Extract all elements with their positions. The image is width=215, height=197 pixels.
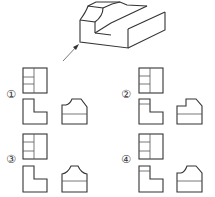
option-3-front-view <box>23 166 47 192</box>
option-2-front-view <box>139 99 163 124</box>
option-4-front-view <box>139 166 163 192</box>
option-1-side-view <box>62 99 87 124</box>
option-4[interactable]: ④ <box>121 134 202 192</box>
option-2-label: ② <box>121 88 131 101</box>
option-2[interactable]: ② <box>121 68 202 124</box>
view-direction-arrow <box>63 44 79 61</box>
option-3-top-view <box>23 134 47 159</box>
option-4-side-view <box>177 166 202 192</box>
option-1-front-view <box>23 99 47 124</box>
projection-diagram: ① ② ③ <box>0 0 215 197</box>
option-4-top-view <box>139 134 163 159</box>
option-1-top-view <box>23 68 47 93</box>
option-3-side-view <box>62 166 87 192</box>
option-3[interactable]: ③ <box>6 134 87 192</box>
option-2-side-view <box>177 99 202 124</box>
option-1-label: ① <box>6 88 16 101</box>
option-4-label: ④ <box>121 153 131 166</box>
option-3-label: ③ <box>6 153 16 166</box>
option-1[interactable]: ① <box>6 68 87 124</box>
option-2-top-view <box>139 68 163 93</box>
isometric-object <box>80 2 165 48</box>
